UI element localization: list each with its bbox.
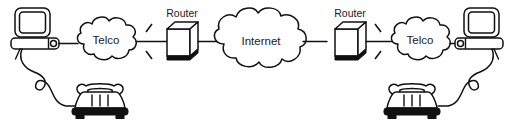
cloud-telco-right: Telco [391,17,450,59]
router-right-icon: Router [334,7,366,60]
cord-left [21,49,76,106]
cloud-telco-left-label: Telco [93,34,120,46]
cord-right [438,49,493,106]
cloud-internet-label: Internet [242,35,282,47]
spark-dash [146,24,152,32]
network-diagram: Telco Router Internet [0,0,514,129]
spark-dash [375,24,381,32]
diagram-canvas: Telco Router Internet [0,0,514,129]
cloud-internet: Internet [214,8,306,67]
spark-dash [375,51,381,59]
telephone-left-icon [72,84,128,119]
cloud-telco-right-label: Telco [407,34,434,46]
computer-left-icon [11,8,59,59]
router-right-label: Router [334,7,366,19]
router-left-label: Router [166,7,198,19]
router-left-icon: Router [166,7,198,60]
computer-right-icon [455,8,503,59]
cloud-telco-left: Telco [77,17,136,59]
link-telco-left-router-left [136,24,167,59]
telephone-right-icon [384,84,440,119]
spark-dash [146,51,152,59]
